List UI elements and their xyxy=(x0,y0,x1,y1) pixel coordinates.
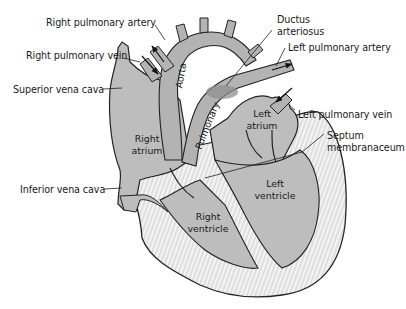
label-left-ventricle-2: ventricle xyxy=(250,190,300,201)
label-septum-line2: membranaceum xyxy=(327,142,405,153)
ductus-arteriosus-region xyxy=(206,85,238,99)
aortic-branch-2 xyxy=(200,18,208,33)
label-right-pulmonary-vein: Right pulmonary vein xyxy=(26,50,127,61)
leader-right-pulmonary-artery xyxy=(155,25,165,40)
label-left-atrium-1: Left xyxy=(244,108,280,119)
label-left-pulmonary-artery: Left pulmonary artery xyxy=(288,42,391,53)
label-ductus-line2: arteriosus xyxy=(277,26,324,37)
label-septum-line1: Septum xyxy=(327,130,364,141)
label-right-ventricle-1: Right xyxy=(183,211,233,222)
label-inferior-vena-cava: Inferior vena cava xyxy=(20,184,105,195)
aortic-branch-1 xyxy=(176,24,188,42)
label-right-ventricle-2: ventricle xyxy=(183,223,233,234)
label-ductus-line1: Ductus xyxy=(277,14,310,25)
label-left-ventricle-1: Left xyxy=(250,178,300,189)
label-right-atrium-2: atrium xyxy=(127,145,167,156)
label-superior-vena-cava: Superior vena cava xyxy=(13,84,104,95)
label-right-atrium-1: Right xyxy=(127,133,167,144)
label-left-atrium-2: atrium xyxy=(240,120,284,131)
label-left-pulmonary-vein: Left pulmonary vein xyxy=(298,109,392,120)
label-right-pulmonary-artery: Right pulmonary artery xyxy=(46,17,156,28)
aortic-branch-3 xyxy=(224,20,236,38)
